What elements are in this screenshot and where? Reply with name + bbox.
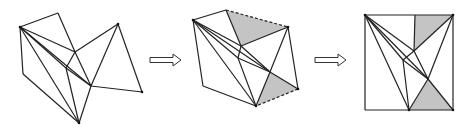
edge bbox=[20, 27, 23, 74]
vertex bbox=[192, 19, 195, 22]
edge bbox=[66, 52, 75, 68]
vertex bbox=[255, 105, 258, 108]
edge bbox=[20, 13, 58, 27]
edge bbox=[20, 27, 66, 68]
edge bbox=[403, 60, 428, 79]
edge bbox=[91, 86, 142, 92]
arrow-right-icon bbox=[315, 54, 346, 66]
edge bbox=[118, 24, 142, 92]
edge bbox=[288, 27, 298, 89]
panel-rectangle-mapping bbox=[364, 14, 455, 112]
shaded-triangle bbox=[256, 72, 298, 106]
edge bbox=[193, 10, 226, 20]
arrow-shape bbox=[315, 54, 346, 66]
edge bbox=[79, 86, 91, 123]
vertex bbox=[408, 109, 411, 112]
vertex bbox=[297, 88, 300, 91]
edge bbox=[414, 51, 428, 79]
edge bbox=[365, 15, 403, 60]
vertex bbox=[364, 14, 367, 17]
arrow-shape bbox=[150, 54, 181, 66]
edge bbox=[365, 15, 414, 51]
vertex bbox=[287, 26, 290, 29]
edge bbox=[23, 74, 79, 123]
edge bbox=[365, 15, 409, 110]
edge bbox=[193, 20, 238, 58]
vertex bbox=[141, 91, 144, 94]
triangulation-diagram bbox=[0, 0, 468, 127]
vertex bbox=[78, 122, 81, 125]
arrow-right-icon bbox=[150, 54, 181, 66]
panel-convex-hull-with-shaded-triangles bbox=[192, 10, 300, 107]
vertex bbox=[117, 23, 120, 26]
edge bbox=[241, 46, 270, 72]
edge bbox=[193, 20, 203, 86]
vertex bbox=[452, 14, 455, 17]
shaded-triangle bbox=[226, 10, 288, 46]
panel-original-triangulation bbox=[19, 13, 144, 124]
vertex bbox=[19, 26, 22, 29]
edge bbox=[58, 13, 75, 52]
vertex bbox=[452, 109, 455, 112]
